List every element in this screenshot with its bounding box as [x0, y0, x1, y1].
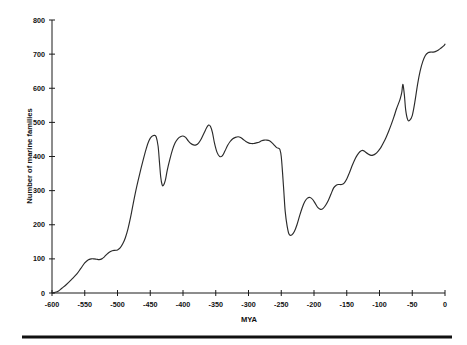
y-tick-label: 600 — [33, 84, 45, 93]
x-tick-label: -50 — [407, 300, 417, 309]
x-tick-label: -550 — [78, 300, 92, 309]
x-tick-label: -300 — [241, 300, 255, 309]
x-tick-label: -350 — [209, 300, 223, 309]
x-tick-label: -450 — [143, 300, 157, 309]
marine-family-diversity-chart: 0100200300400500600700800 -600-550-500-4… — [0, 0, 467, 345]
y-tick-label: 800 — [33, 16, 45, 25]
x-tick-label: -400 — [176, 300, 190, 309]
y-tick-label: 700 — [33, 50, 45, 59]
y-tick-label: 300 — [33, 186, 45, 195]
y-tick-label: 100 — [33, 254, 45, 263]
x-tick-label: -100 — [372, 300, 386, 309]
y-tick-label: 200 — [33, 220, 45, 229]
y-axis-title: Number of marine families — [25, 108, 34, 203]
x-tick-label: -150 — [340, 300, 354, 309]
y-tick-label: 500 — [33, 118, 45, 127]
x-tick-label: -500 — [110, 300, 124, 309]
x-tick-label: 0 — [443, 300, 447, 309]
x-tick-label: -600 — [45, 300, 59, 309]
y-tick-label: 0 — [41, 289, 45, 298]
x-tick-label: -250 — [274, 300, 288, 309]
y-tick-label: 400 — [33, 152, 45, 161]
x-axis-title: MYA — [241, 315, 258, 324]
chart-figure: 0100200300400500600700800 -600-550-500-4… — [0, 0, 467, 345]
x-tick-label: -200 — [307, 300, 321, 309]
